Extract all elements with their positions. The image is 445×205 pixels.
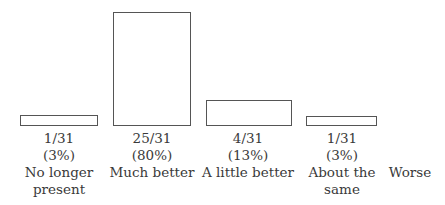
category-label-much-better: 25/31 (80%) Much better (97, 130, 207, 181)
percent-label: (3%) (287, 147, 397, 164)
fraction-label: 25/31 (97, 130, 207, 147)
percent-label: (80%) (97, 147, 207, 164)
category-name: Worse (355, 164, 445, 181)
fraction-label: 1/31 (287, 130, 397, 147)
category-name-line2: same (287, 181, 397, 198)
category-name-line2: present (4, 181, 114, 198)
category-name: Much better (97, 164, 207, 181)
category-label-worse: Worse (355, 164, 445, 181)
bar-a-little-better (206, 100, 292, 126)
bar-chart: 1/31 (3%) No longer present 25/31 (80%) … (0, 0, 445, 205)
bar-no-longer-present (20, 115, 98, 126)
bar-about-the-same (306, 116, 377, 126)
bar-much-better (113, 12, 191, 126)
